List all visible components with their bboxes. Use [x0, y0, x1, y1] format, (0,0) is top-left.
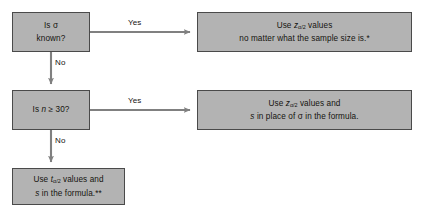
node-text-line-1: Use zα/2 values	[277, 19, 333, 32]
node-text-line-1: Is n ≥ 30?	[33, 103, 70, 116]
node-text-line-2: known?	[37, 32, 66, 45]
text-rest: in the formula.**	[39, 189, 101, 198]
edge-label-sigma-no: No	[55, 58, 65, 67]
outcome-node-use-z-any-sample-size: Use zα/2 values no matter what the sampl…	[197, 12, 412, 52]
text-suffix: values and	[61, 175, 104, 184]
text-prefix: Use	[268, 99, 285, 108]
text-suffix: values	[306, 21, 333, 30]
decision-node-is-sigma-known: Is σ known?	[12, 12, 90, 52]
subscript-alpha-over-2: α/2	[290, 102, 298, 108]
text-prefix: Use	[277, 21, 294, 30]
edge-label-n-yes: Yes	[128, 96, 141, 105]
variable-n: n	[41, 105, 46, 114]
node-text-line-1: Use tα/2 values and	[33, 173, 103, 186]
text-rest: in place of σ in the formula.	[255, 112, 359, 121]
text-suffix: values and	[298, 99, 341, 108]
node-text-line-2: no matter what the sample size is.*	[239, 32, 369, 45]
decision-node-is-n-ge-30: Is n ≥ 30?	[12, 90, 90, 130]
subscript-alpha-over-2: α/2	[298, 24, 306, 30]
outcome-node-use-z-with-s: Use zα/2 values and s in place of σ in t…	[197, 90, 412, 130]
flowchart-diagram: Use z any size --> Is n >= 30? --> Use z…	[0, 0, 425, 213]
outcome-node-use-t-with-s: Use tα/2 values and s in the formula.**	[12, 168, 125, 205]
node-text-line-1: Use zα/2 values and	[268, 97, 340, 110]
node-text-line-2: s in place of σ in the formula.	[250, 110, 358, 123]
subscript-alpha-over-2: α/2	[53, 179, 61, 185]
text-prefix: Use	[33, 175, 50, 184]
edge-label-sigma-yes: Yes	[128, 18, 141, 27]
edge-label-n-no: No	[55, 136, 65, 145]
node-text-line-2: s in the formula.**	[35, 187, 102, 200]
node-text-line-1: Is σ	[44, 19, 58, 32]
